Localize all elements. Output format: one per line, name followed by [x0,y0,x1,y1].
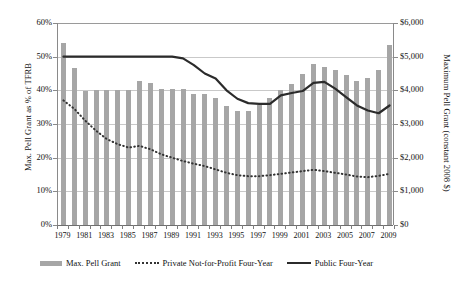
line-public-four-year [63,57,389,114]
y-axis-left-tick-label: 20% [0,152,52,162]
x-axis-tickmark [361,225,362,229]
bar-swatch-icon [40,261,62,266]
line-series-group [58,23,395,225]
y-axis-right-tick-label: $6,000 [400,17,454,27]
x-axis-tickmark [122,225,123,229]
x-axis-tickmark [198,225,199,229]
y-axis-right-tick-label: $3,000 [400,118,454,128]
x-axis-tickmark [274,225,275,229]
x-axis-tickmark [90,225,91,229]
x-axis-tickmark [144,225,145,229]
y-axis-right-tick-label: $0 [400,219,454,229]
x-axis-tickmark [351,225,352,229]
x-axis-tickmark [57,225,58,229]
x-axis-tickmark [231,225,232,229]
legend-label: Private Not-for-Profit Four-Year [163,258,273,268]
y-axis-right-tick-label: $5,000 [400,51,454,61]
x-axis-tickmark [318,225,319,229]
x-axis-tickmark [177,225,178,229]
x-axis-tickmark [209,225,210,229]
legend-item[interactable]: Max. Pell Grant [40,258,121,268]
legend-item[interactable]: Private Not-for-Profit Four-Year [135,258,273,268]
x-axis-tickmark [79,225,80,229]
y-axis-right-tick-label: $1,000 [400,185,454,195]
x-axis-tickmark [296,225,297,229]
y-axis-left-tick-label: 0% [0,219,52,229]
x-axis-tickmark [166,225,167,229]
solid-line-icon [287,262,311,264]
x-axis-tickmark [220,225,221,229]
x-axis-tick-label: 2009 [374,231,404,240]
x-axis-tickmark [264,225,265,229]
x-axis-tickmark [307,225,308,229]
x-axis-tickmark [383,225,384,229]
x-axis-tickmark [155,225,156,229]
x-axis-tickmark [187,225,188,229]
x-axis-tickmark [111,225,112,229]
y-axis-left-tick-label: 10% [0,185,52,195]
x-axis-tickmark [340,225,341,229]
x-axis-tickmarks [57,225,394,230]
x-axis-tickmark [394,225,395,229]
y-axis-right-tick-label: $2,000 [400,152,454,162]
chart-container: Max. Pell Grant as % of TFRB Maximum Pel… [0,0,454,281]
x-axis-tickmark [242,225,243,229]
x-axis-tickmark [285,225,286,229]
y-axis-right-tick-label: $4,000 [400,84,454,94]
x-axis-tickmark [100,225,101,229]
plot-area [57,23,394,225]
y-axis-left-tick-label: 30% [0,118,52,128]
y-axis-left-tick-label: 60% [0,17,52,27]
legend-label: Public Four-Year [315,258,373,268]
x-axis-tickmark [133,225,134,229]
x-axis-tickmark [329,225,330,229]
dotted-line-icon [135,262,159,264]
y-axis-left-title: Max. Pell Grant as % of TFRB [23,37,33,197]
line-private-not-for-profit-four-year [63,100,389,177]
y-axis-left-tick-label: 50% [0,51,52,61]
x-axis-tickmark [372,225,373,229]
x-axis-tickmark [68,225,69,229]
legend-item[interactable]: Public Four-Year [287,258,373,268]
x-axis-tickmark [253,225,254,229]
chart-legend: Max. Pell GrantPrivate Not-for-Profit Fo… [40,255,420,271]
x-axis-labels: 1979198119831985198719891991199319951997… [57,231,394,243]
y-axis-left-tick-label: 40% [0,84,52,94]
legend-label: Max. Pell Grant [66,258,121,268]
